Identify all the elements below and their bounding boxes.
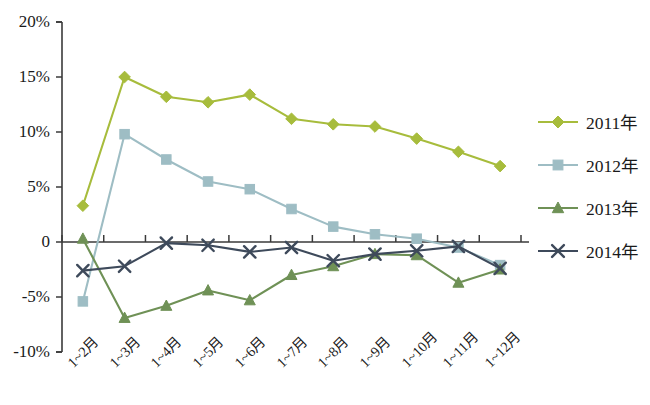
data-point-marker <box>245 184 255 194</box>
y-axis-tick-label: -10% <box>0 343 50 360</box>
data-point-marker <box>453 146 465 158</box>
data-point-marker <box>78 297 88 307</box>
series-2011年 <box>77 71 506 211</box>
y-axis-tick-label: 15% <box>0 68 50 85</box>
legend-item-label: 2011年 <box>580 109 637 134</box>
data-point-marker <box>328 222 338 232</box>
data-point-marker <box>494 160 506 172</box>
data-point-marker <box>369 121 381 133</box>
y-axis-tick-label: 0 <box>0 233 50 250</box>
legend-item-label: 2013年 <box>580 195 638 220</box>
y-axis-tick-label: 20% <box>0 13 50 30</box>
data-point-marker <box>552 116 564 128</box>
data-point-marker <box>203 285 214 295</box>
data-point-marker <box>202 97 214 109</box>
data-point-marker <box>370 230 380 240</box>
data-point-marker <box>412 234 422 244</box>
legend-item-label: 2014年 <box>580 238 638 263</box>
y-axis-tick-label: 10% <box>0 123 50 140</box>
data-point-marker <box>286 113 298 125</box>
series-line <box>83 77 500 206</box>
data-point-marker <box>411 133 423 145</box>
y-axis-tick-label: -5% <box>0 288 50 305</box>
y-axis-tick-label: 5% <box>0 178 50 195</box>
data-point-marker <box>244 89 256 101</box>
legend-cross-icon <box>536 240 580 262</box>
legend-item-2012年[interactable]: 2012年 <box>536 143 648 186</box>
data-point-marker <box>162 155 172 165</box>
data-point-marker <box>120 129 130 139</box>
legend-item-2013年[interactable]: 2013年 <box>536 186 648 229</box>
data-point-marker <box>77 200 89 212</box>
data-point-marker <box>287 204 297 214</box>
data-point-marker <box>119 71 131 83</box>
line-chart: 20%15%10%5%0-5%-10% 1~2月1~3月1~4月1~5月1~6月… <box>0 0 650 405</box>
legend-triangle-icon <box>536 197 580 219</box>
legend-item-2011年[interactable]: 2011年 <box>536 100 648 143</box>
legend-square-icon <box>536 154 580 176</box>
data-point-marker <box>161 91 173 103</box>
data-point-marker <box>553 160 563 170</box>
legend-item-2014年[interactable]: 2014年 <box>536 229 648 272</box>
data-point-marker <box>203 177 213 187</box>
chart-legend: 2011年2012年2013年2014年 <box>536 100 648 272</box>
data-point-marker <box>327 119 339 131</box>
data-point-marker <box>77 233 88 243</box>
legend-item-label: 2012年 <box>580 152 638 177</box>
legend-diamond-icon <box>536 111 580 133</box>
